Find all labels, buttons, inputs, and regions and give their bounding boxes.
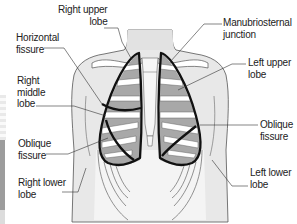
label-right-upper-lobe: Right upper lobe: [58, 4, 108, 27]
label-line: lobe: [250, 179, 291, 191]
label-line: lobe: [18, 189, 66, 201]
label-line: Left upper: [248, 57, 291, 69]
label-line: Right lower: [18, 177, 66, 189]
label-right-middle-lobe: Right middle lobe: [17, 75, 45, 110]
label-line: Left lower: [250, 167, 291, 179]
label-horizontal-fissure: Horizontal fissure: [16, 32, 59, 55]
label-left-upper-lobe: Left upper lobe: [248, 57, 291, 80]
label-line: lobe: [248, 69, 291, 81]
label-right-lower-lobe: Right lower lobe: [18, 177, 66, 200]
label-line: middle: [17, 87, 45, 99]
label-line: Right: [17, 75, 45, 87]
label-line: Manubriosternal: [223, 17, 292, 29]
label-manubriosternal-junction: Manubriosternal junction: [223, 17, 292, 40]
label-oblique-fissure-right-lung: Oblique fissure: [18, 138, 51, 161]
label-oblique-fissure-left-lung: Oblique fissure: [260, 119, 293, 142]
label-line: lobe: [17, 98, 45, 110]
label-line: fissure: [16, 44, 59, 56]
label-line: Oblique: [260, 119, 293, 131]
label-line: Right upper: [58, 4, 108, 16]
label-line: Horizontal: [16, 32, 59, 44]
label-line: junction: [223, 29, 292, 41]
label-line: Oblique: [18, 138, 51, 150]
label-line: fissure: [260, 131, 293, 143]
label-line: fissure: [18, 150, 51, 162]
label-line: lobe: [58, 16, 108, 28]
label-left-lower-lobe: Left lower lobe: [250, 167, 291, 190]
